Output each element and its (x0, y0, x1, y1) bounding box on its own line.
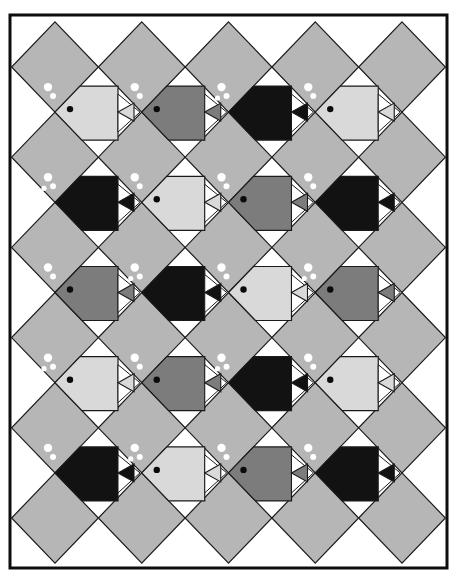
bubble (44, 263, 52, 271)
bubble (302, 276, 307, 281)
bubble (215, 366, 220, 371)
bubble (50, 183, 56, 189)
bubble (137, 454, 143, 460)
bubble (217, 444, 225, 452)
bubble (224, 274, 230, 280)
bubble (50, 454, 56, 460)
bubble (310, 454, 316, 460)
bubble (44, 83, 52, 91)
bubble (310, 93, 316, 99)
bubble (304, 263, 312, 271)
bubble (131, 83, 139, 91)
bubble (137, 364, 143, 370)
bubble (50, 364, 56, 370)
bubble (304, 83, 312, 91)
fish-eye (154, 377, 160, 383)
bubble (131, 173, 139, 181)
fish-eye (67, 377, 73, 383)
bubble (310, 183, 316, 189)
bubble (50, 274, 56, 280)
bubble (310, 274, 316, 280)
fish-eye (67, 467, 73, 473)
bubble (131, 263, 139, 271)
fish-eye (154, 106, 160, 112)
bubble (224, 93, 230, 99)
bubble (137, 274, 143, 280)
bubble (304, 173, 312, 181)
fish-eye (327, 467, 333, 473)
bubble (128, 456, 133, 461)
fish-eye (154, 196, 160, 202)
fish-eye (327, 196, 333, 202)
fish-quilt-illustration (0, 0, 456, 578)
bubble (304, 354, 312, 362)
bubble (128, 276, 133, 281)
bubble (41, 366, 46, 371)
bubble (44, 354, 52, 362)
fish-eye (240, 196, 246, 202)
bubble (224, 183, 230, 189)
bubble (50, 93, 56, 99)
fish-eye (240, 467, 246, 473)
bubble (41, 186, 46, 191)
fish-eye (327, 377, 333, 383)
bubble (137, 93, 143, 99)
bubble (310, 364, 316, 370)
fish-eye (240, 106, 246, 112)
bubble (131, 354, 139, 362)
fish-eye (67, 196, 73, 202)
bubble (304, 444, 312, 452)
bubble (217, 83, 225, 91)
fish-eye (327, 106, 333, 112)
fish-eye (154, 467, 160, 473)
bubble (137, 183, 143, 189)
bubble (44, 444, 52, 452)
fish-eye (327, 286, 333, 292)
bubble (131, 444, 139, 452)
bubble (217, 173, 225, 181)
fish-eye (67, 286, 73, 292)
fish-eye (154, 286, 160, 292)
fish-eye (240, 286, 246, 292)
bubble (224, 454, 230, 460)
fish-eye (240, 377, 246, 383)
bubble (217, 263, 225, 271)
bubble (44, 173, 52, 181)
bubble (215, 96, 220, 101)
bubble (217, 354, 225, 362)
fish-eye (67, 106, 73, 112)
bubble (224, 364, 230, 370)
